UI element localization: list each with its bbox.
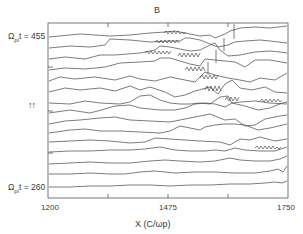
trace xyxy=(49,26,287,38)
x-tick-label-1200: 1200 xyxy=(41,203,59,212)
trace xyxy=(49,156,287,164)
oscillation-bands xyxy=(145,31,282,149)
trace xyxy=(49,147,287,152)
trace xyxy=(49,95,287,104)
trace xyxy=(49,58,287,70)
trace xyxy=(49,72,287,82)
trace xyxy=(49,181,287,187)
front-lines xyxy=(208,24,234,75)
x-tick-label-1750: 1750 xyxy=(277,203,295,212)
trace xyxy=(49,114,287,126)
trace xyxy=(49,137,287,145)
trace xyxy=(49,43,287,59)
x-axis-title: X (C/ωp) xyxy=(135,219,171,229)
traces xyxy=(49,26,287,187)
plot-frame xyxy=(48,23,288,198)
x-tick-label-1475: 1475 xyxy=(159,203,177,212)
plot-area xyxy=(0,0,303,234)
trace xyxy=(49,166,287,174)
trace xyxy=(49,80,287,97)
trace xyxy=(49,102,287,113)
